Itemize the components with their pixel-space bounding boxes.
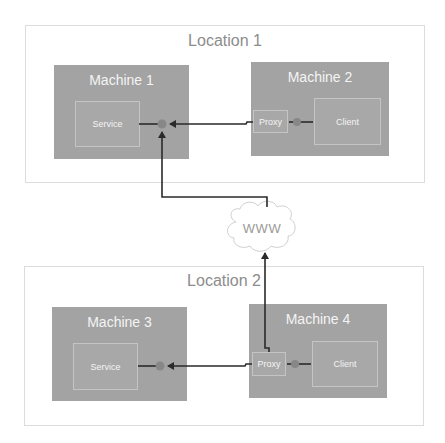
m4-proxy-to-m3-arrow	[168, 364, 252, 366]
m2-proxy-to-m1-arrow	[170, 122, 253, 124]
connector-layer	[0, 0, 445, 443]
m1-endpoint-icon	[158, 120, 167, 129]
www-to-m1-arrow	[162, 132, 267, 207]
m3-endpoint-icon	[156, 362, 165, 371]
m4-proxy-to-www-arrow	[265, 253, 269, 352]
m2-endpoint-icon	[293, 118, 301, 126]
m4-endpoint-icon	[291, 360, 299, 368]
www-label: WWW	[230, 221, 294, 236]
